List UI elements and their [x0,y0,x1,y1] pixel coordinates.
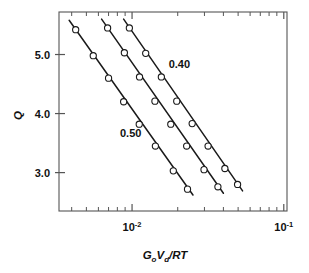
data-point-1-6 [201,167,207,173]
data-point-2-1 [143,50,149,56]
data-point-1-3 [152,98,158,104]
x-tick-label: 10-1 [274,220,293,233]
data-point-1-7 [215,184,221,190]
data-point-0-6 [170,168,176,174]
data-point-0-5 [152,143,158,149]
data-point-2-2 [158,74,164,80]
plot-frame [59,12,287,211]
data-point-1-5 [184,143,190,149]
y-tick-label: 4.0 [35,108,50,120]
data-point-0-1 [90,53,96,59]
data-point-0-0 [73,27,79,33]
data-point-1-2 [136,74,142,80]
y-axis-title: Q [12,111,24,120]
data-point-1-1 [121,50,127,56]
series-annotation-1: 0.50 [120,127,141,139]
data-point-1-0 [105,25,111,31]
data-point-2-3 [174,98,180,104]
data-point-2-7 [234,181,240,187]
data-point-1-4 [168,121,174,127]
data-point-0-3 [121,99,127,105]
data-point-2-6 [222,165,228,171]
x-tick-label: 10-2 [123,220,142,233]
data-point-0-2 [105,75,111,81]
chart-canvas: 10-210-13.04.05.0QGoVd/RT0.400.50 [0,0,309,273]
y-tick-label: 3.0 [35,167,50,179]
x-axis-title: GoVd/RT [143,249,189,264]
series-annotation-0: 0.40 [169,58,190,70]
data-point-0-7 [184,186,190,192]
data-point-2-4 [189,121,195,127]
data-point-2-0 [126,25,132,31]
data-point-2-5 [205,143,211,149]
y-tick-label: 5.0 [35,49,50,61]
figure-container: 10-210-13.04.05.0QGoVd/RT0.400.50 [0,0,309,273]
